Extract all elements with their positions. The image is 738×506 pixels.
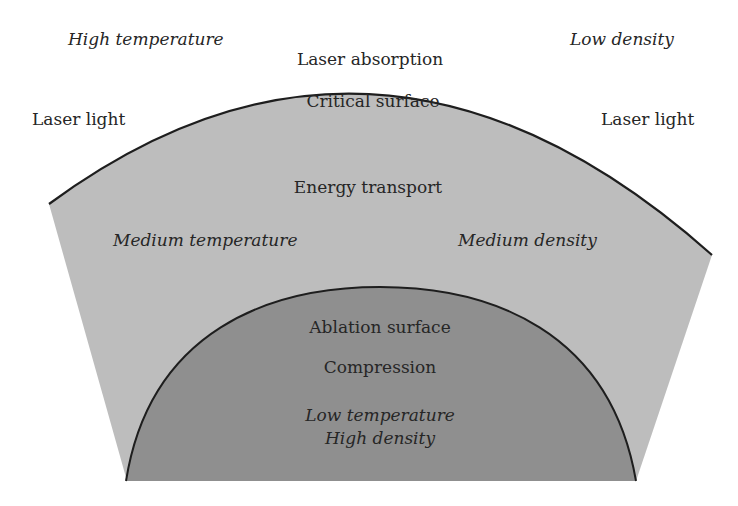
low-temperature-label: Low temperature [305, 405, 455, 425]
laser-light-right-label: Laser light [601, 109, 694, 129]
high-temperature-label: High temperature [68, 29, 224, 49]
laser-absorption-label: Laser absorption [297, 49, 443, 69]
medium-temperature-label: Medium temperature [113, 230, 297, 250]
low-density-label: Low density [570, 29, 674, 49]
compression-label: Compression [324, 357, 437, 377]
high-density-label: High density [325, 428, 435, 448]
critical-surface-label: Critical surface [306, 91, 439, 111]
laser-light-left-label: Laser light [32, 109, 125, 129]
energy-transport-label: Energy transport [294, 177, 442, 197]
ablation-surface-label: Ablation surface [309, 317, 450, 337]
medium-density-label: Medium density [458, 230, 597, 250]
